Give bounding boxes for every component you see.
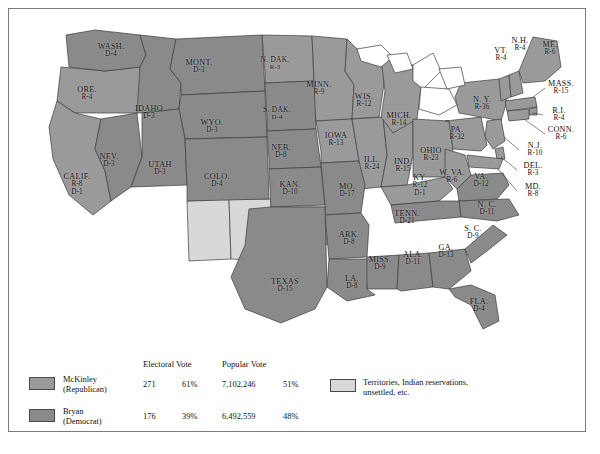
state-electoral-votes: R-13 [325, 141, 348, 148]
state-label-neb: NEB.D-8 [271, 144, 291, 160]
state-electoral-votes: D-8 [339, 240, 360, 247]
state-electoral-votes: D-3 [99, 162, 118, 169]
state-label-nc: N. C.D-11 [477, 201, 496, 217]
callout-label-md: MD.R-8 [525, 183, 541, 199]
state-label-ky: KY.R-12D-1 [413, 174, 428, 197]
legend-popular-pct: 51% [283, 380, 298, 389]
state-electoral-votes: R-9 [306, 90, 331, 97]
state-label-va: VA.D-12 [473, 173, 488, 189]
state-label-ohio: OHIOR-23 [420, 147, 442, 163]
legend-popular-pct: 48% [283, 412, 298, 421]
state-label-pa: PA.R-32 [450, 126, 465, 142]
state-electoral-votes: D-21 [394, 219, 419, 226]
legend-electoral-pct: 61% [182, 380, 197, 389]
state-electoral-votes: D-13 [438, 253, 453, 260]
state-electoral-votes: D-4 [204, 182, 230, 189]
state-label-mo: MO.D-17 [339, 183, 355, 199]
state-electoral-votes: D-15 [271, 287, 299, 294]
state-label-kan: KAN.D-10 [280, 181, 301, 197]
legend-candidate-party: (Democrat) [63, 417, 102, 427]
state-label-utah: UTAHD-3 [148, 161, 171, 177]
map-legend: Electoral Vote Popular Vote McKinley(Rep… [9, 347, 585, 431]
callout-label-mass: MASS.R-15 [548, 80, 574, 96]
state-label-fla: FLA.D-4 [470, 298, 489, 314]
state-electoral-votes: D-9 [464, 234, 482, 241]
state-electoral-votes: R-6 [439, 178, 465, 185]
state-electoral-votes: D-3 [201, 128, 224, 135]
state-electoral-votes: D-4 [98, 52, 125, 59]
state-label-ore: ORE.R-4 [77, 86, 97, 102]
state-label-tenn: TENN.D-21 [394, 210, 419, 226]
legend-col-popular: Popular Vote [222, 359, 266, 369]
state-label-nh: N.H.R-4 [511, 37, 528, 53]
state-electoral-votes: R-15 [394, 167, 412, 174]
state-electoral-votes: D-11 [477, 210, 496, 217]
callout-label-conn: CONN.R-6 [548, 126, 575, 142]
state-label-iowa: IOWAR-13 [325, 132, 348, 148]
state-electoral-votes: R-3 [261, 63, 290, 70]
legend-territory-line1: Territories, Indian reservations, [363, 378, 468, 388]
state-label-ala: ALA.D-11 [403, 251, 423, 267]
state-electoral-votes-split: D-1 [64, 189, 91, 196]
legend-candidate-name: Bryan [63, 407, 83, 417]
state-label-wis: WIS.R-12 [355, 93, 373, 109]
state-label-wyo: WYO.D-3 [201, 119, 224, 135]
legend-electoral-pct: 39% [182, 412, 197, 421]
state-label-calif: CALIF.R-8D-1 [64, 173, 91, 196]
state-electoral-votes: R-6 [542, 50, 557, 57]
legend-swatch-mckinley [29, 377, 55, 390]
state-label-mont: MONT.D-3 [185, 59, 212, 75]
callout-label-nj: N.J.R-10 [528, 142, 543, 158]
state-electoral-votes: D-8 [271, 153, 291, 160]
state-label-texas: TEXASD-15 [271, 278, 299, 294]
state-label-ga: GA.D-13 [438, 244, 453, 260]
state-electoral-votes: R-23 [420, 156, 442, 163]
leader-line [501, 157, 517, 170]
state-electoral-votes: R-4 [552, 116, 565, 123]
legend-popular-votes: 6,492,559 [222, 412, 256, 421]
legend-candidate-party: (Republican) [63, 385, 107, 395]
state-electoral-votes: D-4 [263, 113, 291, 120]
callout-label-ri: R.I.R-4 [552, 107, 565, 123]
state-label-wash: WASH.D-4 [98, 43, 125, 59]
state-electoral-votes: R-6 [548, 135, 575, 142]
state-label-me: ME.R-6 [542, 41, 557, 57]
state-electoral-votes: R-15 [548, 89, 574, 96]
state-electoral-votes: D-17 [339, 192, 355, 199]
state-electoral-votes-split: D-1 [413, 190, 428, 197]
state-electoral-votes: R-32 [450, 135, 465, 142]
electoral-map: WASH.D-4ORE.R-4IDAHOD-3MONT.D-3WYO.D-3NE… [9, 9, 585, 347]
leader-line [524, 119, 545, 134]
state-label-wva: W. VA.R-6 [439, 169, 465, 185]
state-label-ndak: N. DAK.R-3 [261, 56, 290, 70]
map-figure-frame: WASH.D-4ORE.R-4IDAHOD-3MONT.D-3WYO.D-3NE… [8, 8, 586, 432]
state-label-ny: N. Y.R-36 [473, 96, 491, 112]
state-electoral-votes: R-10 [528, 151, 543, 158]
state-label-mich: MICH.R-14 [387, 112, 412, 128]
legend-col-electoral: Electoral Vote [143, 359, 192, 369]
state-electoral-votes: R-4 [511, 46, 528, 53]
leader-line [504, 137, 519, 150]
state-label-sdak: S. DAK.D-4 [263, 106, 291, 120]
state-electoral-votes: D-10 [280, 190, 301, 197]
state-electoral-votes: R-4 [494, 56, 507, 63]
state-label-la: LA.D-8 [345, 275, 359, 291]
callout-label-del: DEL.R-3 [523, 162, 542, 178]
state-electoral-votes: R-12 [355, 102, 373, 109]
state-electoral-votes: D-3 [148, 170, 171, 177]
state-label-idaho: IDAHOD-3 [135, 105, 163, 121]
state-electoral-votes: D-3 [185, 68, 212, 75]
legend-territory-line2: unsettled, etc. [363, 388, 409, 398]
state-label-minn: MINN.R-9 [306, 81, 331, 97]
leader-line [533, 88, 545, 97]
state-electoral-votes: R-3 [523, 171, 542, 178]
state-label-miss: MISS.D-9 [369, 256, 392, 272]
state-label-sc: S. C.D-9 [464, 225, 482, 241]
state-electoral-votes: R-4 [77, 95, 97, 102]
state-label-nev: NEV.D-3 [99, 153, 118, 169]
legend-popular-votes: 7,102,246 [222, 380, 256, 389]
legend-candidate-name: McKinley [63, 375, 97, 385]
state-label-ark: ARK.D-8 [339, 231, 360, 247]
legend-electoral-votes: 176 [143, 412, 156, 421]
state-electoral-votes: D-11 [403, 260, 423, 267]
